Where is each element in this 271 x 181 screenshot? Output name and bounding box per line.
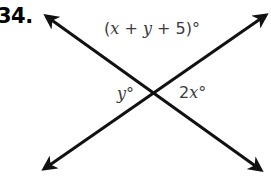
angle-label-top: (x + y + 5)° (104, 21, 200, 37)
angle-label-top-degree: ° (192, 19, 200, 38)
figure-page: 34. (x + y + 5)° y° 2x° (0, 0, 271, 181)
angle-label-left-var: y (117, 84, 126, 103)
angle-label-right-var: x (189, 83, 198, 102)
angle-label-top-plus-2-sign: + (157, 19, 170, 38)
angle-label-top-var-y: y (143, 19, 152, 38)
angle-label-top-plus-1-sign: + (124, 19, 137, 38)
angle-label-top-var-x: x (110, 19, 119, 38)
angle-label-right-coefficient: 2 (179, 83, 189, 102)
angle-label-left: y° (117, 86, 134, 102)
angle-label-left-degree: ° (126, 84, 134, 103)
angle-label-right: 2x° (179, 85, 206, 101)
angle-label-top-num-5: 5 (176, 19, 186, 38)
angle-label-right-degree: ° (198, 83, 206, 102)
